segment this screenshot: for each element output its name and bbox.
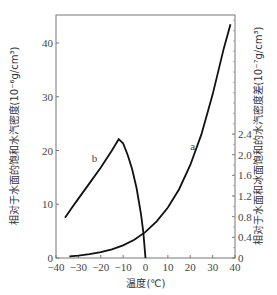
x-tick-label: 10 (162, 261, 174, 273)
x-tick-label: −30 (70, 261, 88, 273)
right-tick-label: 2.4 (238, 128, 252, 140)
curve-a-label: a (190, 140, 195, 152)
chart: −40−30−20−10010203040 010203040 00.40.81… (0, 0, 277, 295)
left-tick-label: 20 (42, 145, 54, 157)
right-tick-label: 1.2 (238, 190, 252, 202)
right-tick-label: 0.8 (238, 211, 252, 223)
left-tick-label: 30 (42, 91, 54, 103)
plot-frame (56, 15, 235, 258)
x-tick-label: −10 (115, 261, 133, 273)
x-tick-label: 0 (143, 261, 149, 273)
right-tick-label: 2.0 (238, 149, 252, 161)
x-tick-label: 30 (207, 261, 219, 273)
right-tick-label: 0.4 (238, 231, 252, 243)
left-axis-label: 相对于水面的饱和水汽密度(10⁻⁶g/cm³) (8, 47, 20, 226)
right-tick-label: 0 (238, 252, 244, 264)
x-tick-label: 20 (185, 261, 197, 273)
curve-a (69, 24, 230, 256)
right-axis-label: 相对于水面和冰面饱和的水汽密度差(10⁻⁷g/cm³) (252, 27, 264, 246)
right-tick-label: 1.6 (238, 169, 252, 181)
x-tick-label: −20 (92, 261, 110, 273)
x-axis-label: 温度(℃) (126, 277, 165, 289)
curve-b-label: b (92, 152, 98, 164)
left-tick-label: 0 (48, 252, 54, 264)
left-tick-label: 10 (42, 198, 54, 210)
left-tick-label: 40 (42, 37, 54, 49)
